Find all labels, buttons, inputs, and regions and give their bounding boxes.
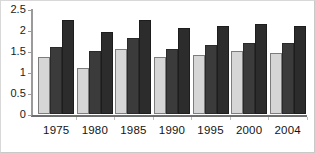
y-tick-mark <box>28 115 32 116</box>
y-tick-mark <box>28 73 32 74</box>
bar <box>166 49 178 114</box>
bar <box>139 20 151 115</box>
bar <box>243 43 255 114</box>
bar <box>127 38 139 114</box>
x-tick-label: 2000 <box>230 124 269 137</box>
y-tick-mark <box>28 94 32 95</box>
bar <box>38 57 50 114</box>
bar <box>178 28 190 114</box>
bar <box>77 68 89 114</box>
bar <box>270 53 282 114</box>
bar <box>89 51 101 114</box>
bar-group <box>193 9 229 114</box>
bar <box>50 47 62 114</box>
x-axis-line <box>31 115 307 117</box>
bar <box>101 32 113 114</box>
x-tick-mark <box>230 117 231 120</box>
x-axis: 1975198019851990199520002004 <box>31 124 307 140</box>
y-tick-label: 0.5 <box>0 88 26 99</box>
bar <box>231 51 243 114</box>
plot-area <box>31 9 307 116</box>
bar <box>193 55 205 114</box>
y-tick-mark <box>28 10 32 11</box>
y-tick-label: 1.5 <box>0 46 26 57</box>
y-axis-line <box>31 9 33 116</box>
x-tick-mark <box>114 117 115 120</box>
bar <box>154 57 166 114</box>
bar-group <box>154 9 190 114</box>
bar-group <box>115 9 151 114</box>
bar <box>255 24 267 114</box>
bar <box>282 43 294 114</box>
x-tick-mark <box>153 117 154 120</box>
x-tick-label: 2004 <box>268 124 307 137</box>
x-tick-mark <box>191 117 192 120</box>
bar-group <box>270 9 306 114</box>
bar-chart: 00.511.522.5 197519801985199019952000200… <box>0 0 315 153</box>
x-tick-mark <box>268 117 269 120</box>
x-tick-label: 1975 <box>37 124 76 137</box>
y-tick-label: 1 <box>0 67 26 78</box>
bar-group <box>77 9 113 114</box>
x-tick-label: 1995 <box>191 124 230 137</box>
y-tick-label: 2.5 <box>0 4 26 15</box>
bar <box>115 49 127 114</box>
x-tick-label: 1990 <box>153 124 192 137</box>
x-tick-mark <box>307 117 308 120</box>
y-tick-label: 0 <box>0 109 26 120</box>
x-tick-mark <box>76 117 77 120</box>
y-tick-mark <box>28 31 32 32</box>
bar <box>205 45 217 114</box>
bar-group <box>38 9 74 114</box>
y-tick-label: 2 <box>0 25 26 36</box>
y-tick-mark <box>28 52 32 53</box>
bar-group <box>231 9 267 114</box>
bar <box>294 26 306 114</box>
bar <box>217 26 229 114</box>
x-tick-label: 1985 <box>114 124 153 137</box>
bar <box>62 20 74 115</box>
x-tick-label: 1980 <box>76 124 115 137</box>
y-axis: 00.511.522.5 <box>0 0 26 153</box>
